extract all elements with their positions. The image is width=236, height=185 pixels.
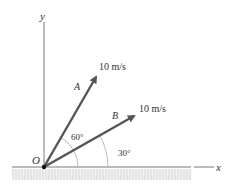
angle-label-30: 30° xyxy=(118,148,131,158)
vector-a-magnitude: 10 m/s xyxy=(99,61,126,72)
ground-hatch xyxy=(12,169,191,180)
vector-b-magnitude: 10 m/s xyxy=(139,103,166,114)
vector-a-label: A xyxy=(73,81,81,92)
x-axis-label: x xyxy=(215,161,221,173)
diagram-canvas: y x O 10 m/s A 10 m/s B 60° 30° xyxy=(0,0,236,185)
angle-arc-30 xyxy=(99,135,108,167)
velocity-vector-diagram: y x O 10 m/s A 10 m/s B 60° 30° xyxy=(0,0,236,185)
origin-point xyxy=(42,165,46,169)
angle-label-60: 60° xyxy=(71,132,84,142)
vector-b-label: B xyxy=(112,110,118,121)
origin-label: O xyxy=(32,154,40,166)
y-axis-label: y xyxy=(39,10,45,22)
